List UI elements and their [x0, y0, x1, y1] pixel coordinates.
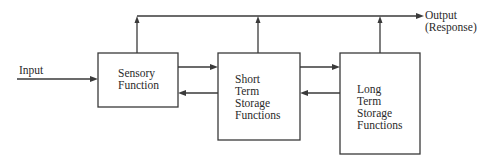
short-term-to-sensory-arrowhead [178, 90, 186, 96]
box-label-line: Functions [357, 119, 403, 131]
short-term-storage-box: Short Term Storage Functions [218, 53, 300, 140]
box-label-line: Function [118, 79, 159, 91]
box-label-line: Term [357, 95, 381, 107]
long-term-to-short-term-arrowhead [300, 90, 308, 96]
sensory-to-short-term-arrowhead [210, 64, 218, 70]
memory-model-diagram: Sensory Function Short Term Storage Func… [0, 0, 489, 161]
long-term-storage-box: Long Term Storage Functions [340, 53, 420, 154]
short-term-to-output-arrowhead [256, 16, 261, 23]
sensory-function-box: Sensory Function [98, 53, 178, 107]
box-label-line: Functions [235, 109, 281, 121]
short-term-to-long-term-arrowhead [332, 64, 340, 70]
long-term-to-output-arrowhead [378, 16, 383, 23]
sensory-to-output-arrowhead [135, 16, 140, 23]
output-sublabel: (Response) [425, 21, 477, 34]
box-label-line: Short [235, 73, 261, 85]
output-arrowhead [416, 13, 424, 19]
box-label-line: Term [235, 85, 259, 97]
input-arrowhead [90, 76, 98, 82]
input-label: Input [19, 64, 44, 77]
